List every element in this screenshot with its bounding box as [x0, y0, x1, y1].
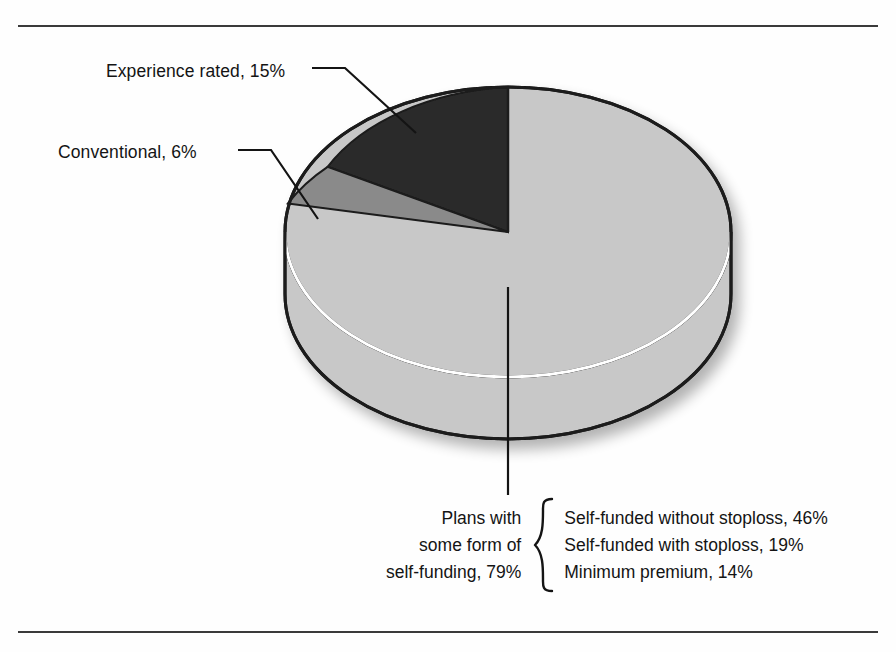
pie-chart-figure: Experience rated, 15% Conventional, 6% P… — [0, 0, 896, 652]
caption-summary-line-3: self-funding, 79% — [386, 559, 521, 586]
callout-label-experience-rated: Experience rated, 15% — [106, 61, 285, 81]
caption-summary-line-2: some form of — [386, 532, 521, 559]
left-curly-brace-icon — [530, 497, 556, 593]
caption-group: Plans with some form of self-funding, 79… — [386, 497, 828, 593]
caption-item-self-funded-without-stoploss: Self-funded without stoploss, 46% — [564, 505, 828, 532]
caption-item-self-funded-with-stoploss: Self-funded with stoploss, 19% — [564, 532, 828, 559]
caption-item-minimum-premium: Minimum premium, 14% — [564, 559, 828, 586]
caption-summary-line-1: Plans with — [386, 505, 521, 532]
caption-item-list: Self-funded without stoploss, 46% Self-f… — [556, 505, 828, 586]
callout-label-conventional: Conventional, 6% — [58, 142, 197, 162]
caption-summary: Plans with some form of self-funding, 79… — [386, 505, 530, 586]
